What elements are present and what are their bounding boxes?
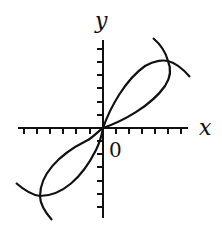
- x-axis-label: x: [199, 115, 212, 140]
- y-axis-label: y: [94, 8, 108, 33]
- origin-label: 0: [109, 138, 122, 162]
- graph: y x 0: [0, 0, 222, 230]
